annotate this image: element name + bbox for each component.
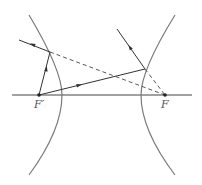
focus-point-right: [163, 93, 167, 97]
left-focus-label: F′: [33, 98, 45, 111]
arrow-icon: [129, 45, 133, 51]
ray-fprime-to-left-branch: [39, 52, 50, 95]
focus-point-left: [37, 93, 41, 97]
arrow-icon: [30, 43, 36, 47]
arrow-icon: [76, 84, 82, 87]
right-focus-label: F: [160, 98, 169, 111]
hyperbola-reflection-diagram: F′ F: [0, 0, 202, 185]
